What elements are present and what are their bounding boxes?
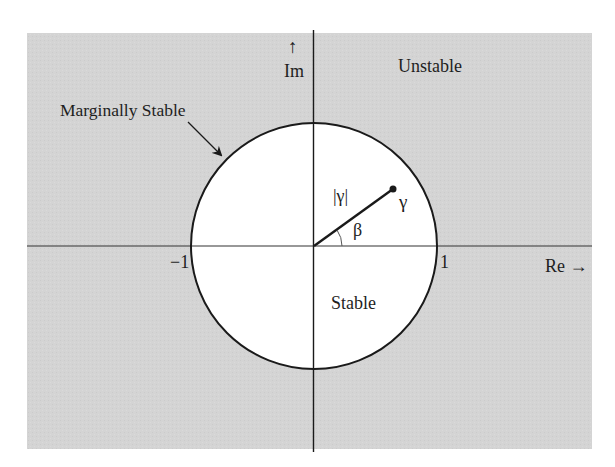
unstable-label: Unstable [398, 57, 462, 75]
tick-pos-one: 1 [440, 253, 449, 271]
re-axis-label: Re → [545, 257, 588, 275]
beta-label: β [353, 221, 362, 239]
stability-diagram: ↑ Im Unstable Marginally Stable |γ| γ β … [0, 0, 615, 467]
im-axis-label: Im [284, 62, 304, 80]
tick-neg-one: −1 [170, 253, 189, 271]
gamma-label: γ [399, 192, 407, 211]
marginally-stable-label: Marginally Stable [60, 102, 186, 120]
magnitude-label: |γ| [333, 187, 348, 205]
diagram-canvas [0, 0, 615, 467]
stable-label: Stable [331, 294, 376, 312]
im-arrow-icon: ↑ [288, 37, 298, 56]
gamma-point [390, 186, 397, 193]
